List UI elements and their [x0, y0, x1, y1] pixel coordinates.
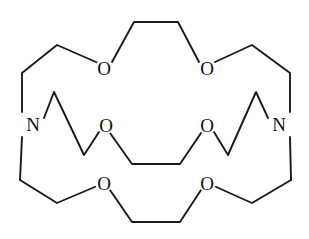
atom-label-group: OONNOOOO — [24, 58, 288, 194]
atom-label-O-bottom-left: O — [97, 173, 111, 194]
middle-bridge-center — [110, 133, 201, 164]
bond-group — [20, 22, 291, 222]
lower-bridge-center — [110, 190, 201, 222]
upper-bridge-center — [112, 22, 199, 62]
right-nitrogen-down-arm — [290, 137, 291, 180]
lower-bridge-chain-right — [214, 180, 291, 203]
left-nitrogen-down-arm — [20, 137, 22, 180]
atom-label-O-top-right: O — [200, 58, 214, 79]
upper-bridge-chain — [22, 45, 104, 73]
lower-bridge-chain-left — [20, 180, 97, 203]
atom-label-N-right: N — [272, 114, 286, 135]
upper-bridge-chain-right — [215, 45, 290, 73]
atom-label-O-middle-right: O — [200, 115, 214, 136]
middle-bridge-left-zigzag — [44, 92, 99, 155]
chemical-structure-diagram: OONNOOOO — [0, 0, 309, 239]
atom-label-O-bottom-right: O — [200, 173, 214, 194]
middle-bridge-right-zigzag — [214, 92, 268, 155]
molecule-canvas: OONNOOOO — [0, 0, 309, 239]
atom-label-N-left: N — [26, 114, 40, 135]
atom-label-O-middle-left: O — [99, 115, 113, 136]
atom-label-O-top-left: O — [97, 58, 111, 79]
